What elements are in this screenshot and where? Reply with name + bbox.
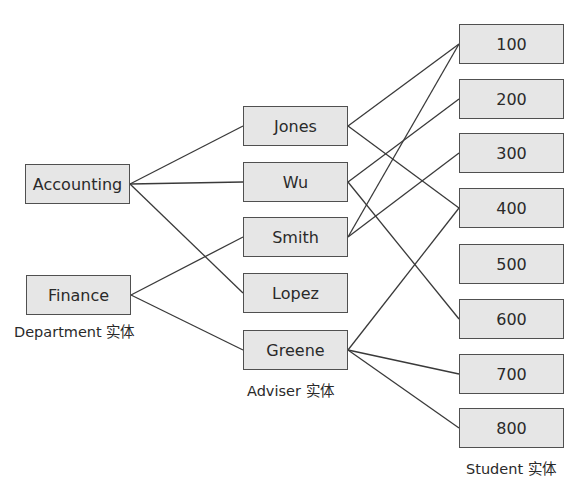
link-finance-greene	[131, 295, 243, 350]
link-accounting-jones	[130, 126, 243, 184]
box-label: Finance	[48, 286, 109, 305]
link-wu-s600	[348, 182, 459, 319]
box-label: 200	[496, 90, 527, 109]
student-300-box: 300	[459, 133, 564, 173]
box-label: 100	[496, 35, 527, 54]
student-400-box: 400	[459, 188, 564, 228]
box-label: 600	[496, 310, 527, 329]
box-label: 700	[496, 365, 527, 384]
adviser-wu-box: Wu	[243, 162, 348, 202]
student-600-box: 600	[459, 299, 564, 339]
box-label: 500	[496, 255, 527, 274]
student-800-box: 800	[459, 408, 564, 448]
adviser-entity-caption: Adviser 实体	[247, 379, 334, 400]
adviser-smith-box: Smith	[243, 217, 348, 257]
box-label: Jones	[274, 117, 317, 136]
box-label: Accounting	[33, 175, 122, 194]
box-label: Wu	[283, 173, 308, 192]
adviser-lopez-box: Lopez	[243, 273, 348, 313]
box-label: 800	[496, 419, 527, 438]
department-accounting-box: Accounting	[25, 164, 130, 204]
department-finance-box: Finance	[26, 275, 131, 315]
student-200-box: 200	[459, 79, 564, 119]
box-label: 400	[496, 199, 527, 218]
link-jones-s100	[348, 44, 459, 126]
student-500-box: 500	[459, 244, 564, 284]
link-finance-smith	[131, 237, 243, 295]
link-greene-s400	[348, 208, 459, 350]
box-label: Lopez	[272, 284, 319, 303]
student-100-box: 100	[459, 24, 564, 64]
link-accounting-lopez	[130, 184, 243, 293]
box-label: Greene	[266, 341, 324, 360]
student-700-box: 700	[459, 354, 564, 394]
link-accounting-wu	[130, 182, 243, 184]
box-label: Smith	[272, 228, 319, 247]
student-entity-caption: Student 实体	[466, 457, 556, 478]
adviser-greene-box: Greene	[243, 330, 348, 370]
entity-relationship-diagram: Accounting Finance Jones Wu Smith Lopez …	[0, 0, 580, 485]
department-entity-caption: Department 实体	[14, 320, 134, 341]
box-label: 300	[496, 144, 527, 163]
link-smith-s100	[348, 44, 459, 237]
adviser-jones-box: Jones	[243, 106, 348, 146]
